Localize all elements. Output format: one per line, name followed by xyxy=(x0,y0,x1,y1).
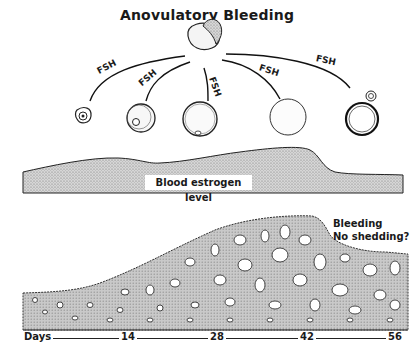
bleeding-note: Bleeding No shedding? xyxy=(333,217,409,243)
axis-line xyxy=(52,338,402,339)
tick-42: 42 xyxy=(298,331,316,342)
follicle-4-icon xyxy=(270,99,306,135)
follicle-1-icon xyxy=(76,108,92,123)
tick-56: 56 xyxy=(386,331,404,342)
tick-28: 28 xyxy=(208,331,226,342)
days-axis: Days 14 28 42 56 xyxy=(22,331,410,345)
no-shedding-label: No shedding? xyxy=(333,230,409,243)
follicle-2-icon xyxy=(127,104,155,132)
pituitary-icon xyxy=(188,19,222,49)
tick-14: 14 xyxy=(119,331,137,342)
estrogen-level-label: Blood estrogen level xyxy=(145,175,252,190)
axis-label: Days xyxy=(22,331,53,342)
bleeding-label: Bleeding xyxy=(333,217,409,230)
follicle-5-icon xyxy=(346,91,378,135)
follicle-3-icon xyxy=(183,102,217,136)
